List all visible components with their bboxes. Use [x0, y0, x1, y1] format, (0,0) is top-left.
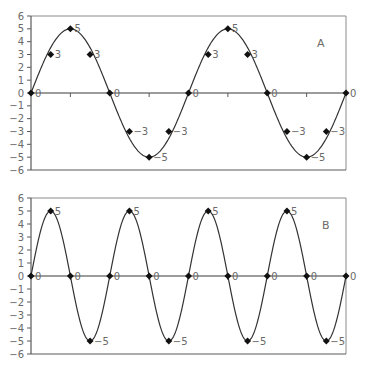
data-point-marker — [87, 338, 94, 345]
data-point-marker — [106, 273, 113, 280]
panel-label: B — [322, 219, 330, 232]
y-tick-label: 4 — [18, 219, 24, 230]
data-point-marker — [165, 338, 172, 345]
y-tick-label: 1 — [18, 258, 24, 269]
data-point-marker — [185, 90, 192, 97]
data-point-marker — [244, 338, 251, 345]
data-point-marker — [303, 273, 310, 280]
data-point-label: −5 — [173, 336, 188, 347]
data-point-label: 3 — [55, 49, 61, 60]
data-point-label: 0 — [114, 271, 120, 282]
y-tick-label: 1 — [18, 75, 24, 86]
data-point-label: 0 — [350, 271, 356, 282]
y-tick-label: −3 — [9, 310, 24, 321]
data-point-label: −3 — [330, 126, 345, 137]
sine-wave-figure: 6543210−1−2−3−4−5−603530−3−5−303530−3−5−… — [0, 0, 367, 371]
y-tick-label: −3 — [9, 126, 24, 137]
data-point-marker — [28, 273, 35, 280]
y-tick-label: 2 — [18, 62, 24, 73]
data-point-label: 0 — [271, 88, 277, 99]
data-point-marker — [283, 208, 290, 215]
data-point-label: −5 — [94, 336, 109, 347]
data-point-label: 3 — [212, 49, 218, 60]
data-point-marker — [185, 273, 192, 280]
data-point-label: 5 — [55, 206, 61, 217]
data-point-marker — [323, 338, 330, 345]
y-tick-label: 6 — [18, 193, 24, 204]
data-point-label: −3 — [173, 126, 188, 137]
data-point-marker — [224, 273, 231, 280]
y-tick-label: −5 — [9, 336, 24, 347]
data-point-label: 3 — [252, 49, 258, 60]
data-point-label: −5 — [153, 152, 168, 163]
y-tick-label: −5 — [9, 152, 24, 163]
data-point-label: −5 — [311, 152, 326, 163]
data-point-label: −3 — [291, 126, 306, 137]
data-point-marker — [343, 90, 350, 97]
data-point-label: 0 — [193, 88, 199, 99]
y-tick-label: 4 — [18, 36, 24, 47]
data-point-marker — [67, 25, 74, 32]
y-tick-label: 0 — [18, 271, 24, 282]
data-point-label: 5 — [133, 206, 139, 217]
data-point-label: −3 — [133, 126, 148, 137]
data-point-marker — [146, 154, 153, 161]
data-point-label: 5 — [74, 23, 80, 34]
data-point-label: 0 — [350, 88, 356, 99]
panel-label: A — [317, 37, 325, 50]
y-tick-label: −2 — [9, 113, 24, 124]
data-point-label: 0 — [311, 271, 317, 282]
data-point-marker — [264, 273, 271, 280]
y-tick-label: 6 — [18, 11, 24, 22]
y-tick-label: 5 — [18, 206, 24, 217]
chart-b: 6543210−1−2−3−4−5−6050−5050−5050−5050−50… — [0, 185, 367, 371]
y-tick-label: 5 — [18, 23, 24, 34]
y-tick-label: 3 — [18, 49, 24, 60]
data-point-marker — [303, 154, 310, 161]
data-point-marker — [28, 90, 35, 97]
y-tick-label: −1 — [9, 100, 24, 111]
y-tick-label: 0 — [18, 88, 24, 99]
data-point-label: 0 — [153, 271, 159, 282]
data-point-label: 0 — [271, 271, 277, 282]
data-point-label: 0 — [35, 271, 41, 282]
data-point-label: 0 — [193, 271, 199, 282]
data-point-marker — [343, 273, 350, 280]
data-point-marker — [264, 90, 271, 97]
data-point-label: 0 — [35, 88, 41, 99]
data-point-label: 5 — [291, 206, 297, 217]
y-tick-label: 3 — [18, 232, 24, 243]
data-point-marker — [126, 208, 133, 215]
y-tick-label: −6 — [9, 349, 24, 360]
data-point-marker — [106, 90, 113, 97]
data-point-marker — [67, 273, 74, 280]
data-point-marker — [47, 208, 54, 215]
data-point-label: 0 — [232, 271, 238, 282]
data-point-label: 0 — [114, 88, 120, 99]
data-point-label: −5 — [252, 336, 267, 347]
data-point-label: 0 — [74, 271, 80, 282]
data-point-marker — [224, 25, 231, 32]
data-point-label: 5 — [232, 23, 238, 34]
y-tick-label: −4 — [9, 139, 24, 150]
data-point-label: −5 — [330, 336, 345, 347]
chart-a: 6543210−1−2−3−4−5−603530−3−5−303530−3−5−… — [0, 0, 367, 185]
y-tick-label: 2 — [18, 245, 24, 256]
data-point-label: 5 — [212, 206, 218, 217]
data-point-marker — [146, 273, 153, 280]
data-point-label: 3 — [94, 49, 100, 60]
y-tick-label: −6 — [9, 165, 24, 176]
data-point-marker — [205, 208, 212, 215]
y-tick-label: −2 — [9, 297, 24, 308]
y-tick-label: −1 — [9, 284, 24, 295]
y-tick-label: −4 — [9, 323, 24, 334]
